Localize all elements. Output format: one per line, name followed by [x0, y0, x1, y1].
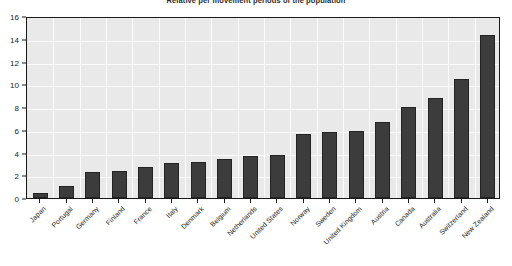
y-tick-label: 10	[10, 81, 19, 90]
y-tick-label: 4	[15, 149, 19, 158]
x-tick-mark	[145, 199, 146, 203]
bar	[191, 162, 206, 198]
bar	[243, 156, 258, 198]
bar	[112, 171, 127, 198]
chart-title: Relative per movement periods of the pop…	[0, 0, 512, 5]
x-tick-label: Finland	[105, 205, 126, 226]
bar	[296, 134, 311, 198]
x-tick-mark	[171, 199, 172, 203]
x-tick-mark	[408, 199, 409, 203]
y-tick-label: 14	[10, 35, 19, 44]
y-tick-label: 12	[10, 58, 19, 67]
bar-series	[27, 18, 499, 198]
bar	[85, 172, 100, 198]
y-tick-label: 6	[15, 126, 19, 135]
bar	[270, 155, 285, 198]
bar	[428, 98, 443, 198]
x-tick-label: Austria	[369, 205, 390, 226]
x-tick-mark	[66, 199, 67, 203]
y-tick-label: 0	[15, 195, 19, 204]
bar	[454, 79, 469, 198]
x-tick-label: Portugal	[50, 205, 74, 229]
x-tick-mark	[461, 199, 462, 203]
x-tick-mark	[39, 199, 40, 203]
bar	[33, 193, 48, 198]
x-tick-label: Australia	[418, 205, 443, 230]
chart-figure: Relative per movement periods of the pop…	[0, 0, 512, 266]
x-tick-mark	[303, 199, 304, 203]
x-tick-mark	[92, 199, 93, 203]
bar	[217, 159, 232, 198]
bar	[59, 186, 74, 199]
x-tick-label: France	[132, 205, 153, 226]
x-tick-label: Japan	[28, 205, 47, 224]
bar	[349, 131, 364, 198]
bar	[480, 35, 495, 198]
x-tick-mark	[434, 199, 435, 203]
x-tick-mark	[197, 199, 198, 203]
bar	[375, 122, 390, 198]
x-tick-label: Norway	[289, 205, 311, 227]
x-tick-label: Canada	[393, 205, 416, 228]
y-tick-label: 16	[10, 13, 19, 22]
bar	[138, 167, 153, 198]
x-tick-mark	[250, 199, 251, 203]
y-tick-label: 8	[15, 104, 19, 113]
bar	[322, 132, 337, 198]
x-tick-mark	[276, 199, 277, 203]
x-tick-label: Belgium	[208, 205, 231, 228]
x-tick-mark	[355, 199, 356, 203]
x-axis: JapanPortugalGermanyFinlandFranceItalyDe…	[26, 199, 500, 266]
y-axis: 0246810121416	[0, 17, 26, 199]
y-tick-label: 2	[15, 172, 19, 181]
x-tick-label: Germany	[74, 205, 100, 231]
x-tick-mark	[224, 199, 225, 203]
x-tick-mark	[382, 199, 383, 203]
plot-area	[26, 17, 500, 199]
x-tick-label: Italy	[165, 205, 179, 219]
x-tick-label: Denmark	[180, 205, 205, 230]
bar	[164, 163, 179, 198]
bar	[401, 107, 416, 198]
x-tick-mark	[487, 199, 488, 203]
x-tick-mark	[118, 199, 119, 203]
x-tick-label: Sweden	[314, 205, 337, 228]
x-tick-mark	[329, 199, 330, 203]
